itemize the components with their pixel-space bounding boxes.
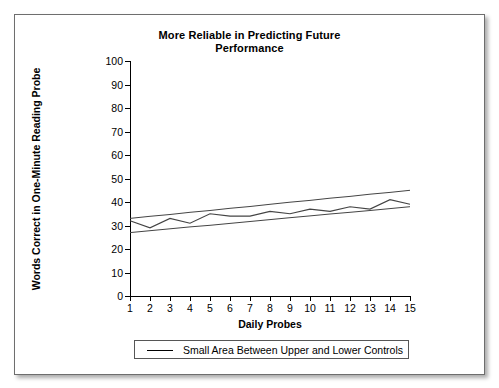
x-tick-label: 1 [121, 303, 139, 314]
x-tick-label: 3 [161, 303, 179, 314]
y-tick [125, 108, 130, 109]
x-tick [130, 296, 131, 301]
legend-label: Small Area Between Upper and Lower Contr… [183, 344, 403, 356]
y-tick [125, 61, 130, 62]
y-tick-label: 40 [97, 197, 123, 207]
x-tick-label: 12 [341, 303, 359, 314]
y-tick [125, 202, 130, 203]
y-tick [125, 85, 130, 86]
y-tick-label: 100 [97, 56, 123, 66]
x-tick-label: 13 [361, 303, 379, 314]
y-tick-label: 20 [97, 244, 123, 254]
x-tick [230, 296, 231, 301]
x-tick-label: 6 [221, 303, 239, 314]
x-tick-label: 10 [301, 303, 319, 314]
x-tick-label: 5 [201, 303, 219, 314]
y-tick [125, 155, 130, 156]
lower-control-line [130, 207, 410, 233]
x-tick-label: 4 [181, 303, 199, 314]
y-axis-line [130, 61, 131, 296]
x-tick [170, 296, 171, 301]
y-tick-label: 30 [97, 221, 123, 231]
x-tick [190, 296, 191, 301]
y-tick-label: 80 [97, 103, 123, 113]
y-tick-label: 90 [97, 80, 123, 90]
x-tick [310, 296, 311, 301]
x-tick-label: 8 [261, 303, 279, 314]
x-tick [370, 296, 371, 301]
y-tick-label: 50 [97, 174, 123, 184]
legend: Small Area Between Upper and Lower Contr… [134, 340, 409, 359]
y-tick [125, 249, 130, 250]
y-tick-label: 60 [97, 150, 123, 160]
x-tick-label: 11 [321, 303, 339, 314]
y-tick-label: 10 [97, 268, 123, 278]
legend-line-swatch [147, 350, 173, 351]
y-tick-label: 0 [97, 291, 123, 301]
x-tick [290, 296, 291, 301]
x-tick-label: 2 [141, 303, 159, 314]
x-tick [270, 296, 271, 301]
figure-frame: More Reliable in Predicting Future Perfo… [14, 14, 485, 375]
y-tick [125, 273, 130, 274]
x-tick [410, 296, 411, 301]
y-tick-label: 70 [97, 127, 123, 137]
x-axis-title: Daily Probes [130, 318, 410, 330]
x-tick [330, 296, 331, 301]
y-axis-title: Words Correct in One-Minute Reading Prob… [30, 54, 42, 304]
y-tick [125, 179, 130, 180]
x-tick-label: 7 [241, 303, 259, 314]
upper-control-line [130, 190, 410, 218]
y-tick [125, 132, 130, 133]
x-tick-label: 9 [281, 303, 299, 314]
x-tick [150, 296, 151, 301]
x-tick [210, 296, 211, 301]
x-tick [390, 296, 391, 301]
performance-line [130, 200, 410, 228]
x-tick-label: 15 [401, 303, 419, 314]
y-tick [125, 226, 130, 227]
x-tick-label: 14 [381, 303, 399, 314]
x-tick [250, 296, 251, 301]
plot-area: Words Correct in One-Minute Reading Prob… [15, 15, 486, 376]
x-tick [350, 296, 351, 301]
